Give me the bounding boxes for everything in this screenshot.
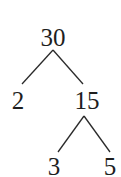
- factor-tree-diagram: 30 2 15 3 5: [0, 0, 121, 177]
- node-root: 30: [41, 25, 66, 50]
- edge-30-to-15: [53, 50, 83, 84]
- edge-15-to-3: [58, 116, 84, 152]
- node-right-right-leaf: 5: [104, 154, 117, 177]
- node-right-left-leaf: 3: [48, 154, 61, 177]
- node-left-leaf: 2: [12, 88, 25, 113]
- edge-15-to-5: [84, 116, 110, 152]
- edge-30-to-2: [22, 50, 53, 84]
- node-right: 15: [75, 88, 100, 113]
